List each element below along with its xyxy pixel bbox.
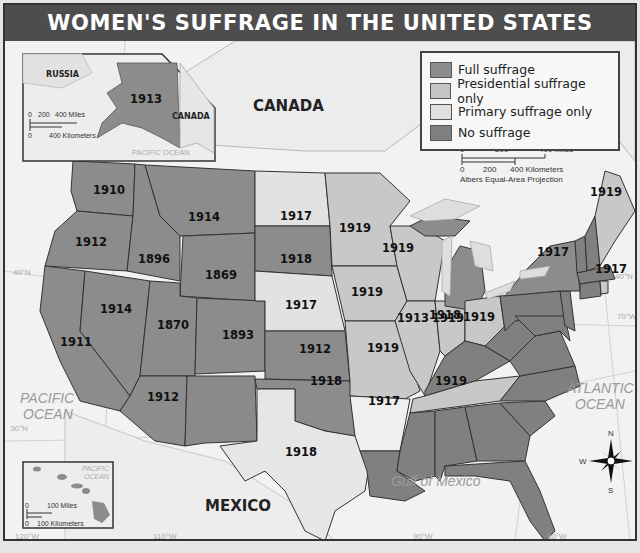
label-wyoming: 1869: [205, 268, 237, 282]
label-atlantic-ocean-1: ATLANTIC: [566, 380, 635, 396]
svg-text:S: S: [608, 486, 613, 495]
label-oklahoma: 1918: [310, 374, 342, 388]
lake-michigan: [442, 236, 452, 296]
label-arizona: 1912: [147, 390, 179, 404]
svg-text:400 Kilometers: 400 Kilometers: [510, 165, 563, 174]
svg-text:PACIFIC OCEAN: PACIFIC OCEAN: [132, 148, 190, 157]
label-nevada: 1914: [100, 302, 132, 316]
label-lon-110: 110°W: [153, 532, 177, 541]
label-gulf-of-mexico: Gulf of Mexico: [391, 473, 481, 489]
label-kansas: 1912: [299, 342, 331, 356]
svg-text:100 Kilometers: 100 Kilometers: [37, 520, 84, 527]
svg-text:0: 0: [25, 520, 29, 527]
svg-text:200: 200: [483, 165, 497, 174]
label-texas: 1918: [285, 445, 317, 459]
svg-text:400 Kilometers: 400 Kilometers: [49, 132, 96, 139]
swatch-primary: [430, 104, 452, 120]
svg-text:200: 200: [38, 111, 50, 118]
label-utah: 1870: [157, 318, 189, 332]
state-south-dakota[interactable]: [255, 226, 332, 276]
label-missouri: 1919: [367, 341, 399, 355]
map-title: WOMEN'S SUFFRAGE IN THE UNITED STATES BE…: [5, 5, 635, 41]
label-montana: 1914: [188, 210, 220, 224]
label-iowa: 1919: [351, 285, 383, 299]
label-lat-40-east: 40°N: [615, 272, 633, 281]
svg-text:100 Miles: 100 Miles: [47, 502, 77, 509]
label-alaska: 1913: [130, 92, 162, 106]
label-wisconsin: 1919: [382, 241, 414, 255]
state-rhode-island[interactable]: [600, 281, 608, 294]
label-indiana: 1919: [432, 311, 464, 325]
label-washington: 1910: [93, 183, 125, 197]
label-north-dakota: 1917: [280, 209, 312, 223]
label-minnesota: 1919: [339, 221, 371, 235]
label-lon-120: 120°W: [15, 532, 40, 541]
label-pacific-ocean-2: OCEAN: [23, 406, 74, 422]
svg-text:0: 0: [460, 165, 465, 174]
swatch-full: [430, 62, 452, 78]
label-maine: 1919: [590, 185, 622, 199]
svg-text:0: 0: [28, 132, 32, 139]
label-lon-70: 70°W: [617, 312, 635, 321]
label-lat-40: 40°N: [13, 268, 31, 277]
label-pacific-ocean-1: PACIFIC: [20, 390, 75, 406]
label-lon-90: 90°W: [413, 532, 433, 541]
map-frame: WOMEN'S SUFFRAGE IN THE UNITED STATES BE…: [3, 3, 637, 541]
svg-text:0: 0: [28, 111, 32, 118]
legend-item-presidential: Presidential suffrage only: [430, 80, 610, 101]
state-connecticut[interactable]: [580, 281, 601, 299]
label-mexico: MEXICO: [205, 497, 271, 515]
svg-text:W: W: [579, 457, 587, 466]
label-arkansas: 1917: [368, 394, 400, 408]
legend: Full suffrage Presidential suffrage only…: [420, 51, 620, 151]
svg-text:PACIFIC: PACIFIC: [82, 465, 110, 472]
label-south-dakota: 1918: [280, 252, 312, 266]
compass-rose: N S E W: [579, 429, 635, 495]
label-california: 1911: [60, 335, 92, 349]
label-illinois: 1913: [397, 311, 429, 325]
hawaii-inset: PACIFIC OCEAN 0 100 Miles 0 100 Kilomete…: [22, 461, 114, 529]
label-nebraska: 1917: [285, 298, 317, 312]
lake-superior: [410, 199, 480, 221]
label-tennessee: 1919: [435, 374, 467, 388]
swatch-presidential: [430, 83, 451, 99]
swatch-none: [430, 125, 452, 141]
label-new-york: 1917: [537, 245, 569, 259]
legend-item-none: No suffrage: [430, 122, 610, 143]
label-atlantic-ocean-2: OCEAN: [575, 396, 626, 412]
alaska-inset: 1913 RUSSIA CANADA PACIFIC OCEAN 0 200 4…: [22, 53, 217, 163]
svg-text:Albers Equal-Area Projection: Albers Equal-Area Projection: [460, 175, 563, 184]
svg-text:400 Miles: 400 Miles: [55, 111, 85, 118]
label-lat-30: 30°N: [10, 424, 28, 433]
state-wyoming[interactable]: [180, 233, 255, 301]
svg-text:RUSSIA: RUSSIA: [46, 70, 80, 79]
svg-text:OCEAN: OCEAN: [84, 473, 110, 480]
svg-text:N: N: [608, 429, 614, 438]
label-ohio: 1919: [463, 310, 495, 324]
label-lon-80: 80°W: [547, 532, 567, 541]
label-oregon: 1912: [75, 235, 107, 249]
label-colorado: 1893: [222, 328, 254, 342]
label-idaho: 1896: [138, 252, 170, 266]
svg-text:0: 0: [25, 502, 29, 509]
label-canada: CANADA: [253, 97, 324, 115]
state-new-mexico[interactable]: [185, 376, 257, 446]
svg-text:CANADA: CANADA: [172, 112, 211, 121]
